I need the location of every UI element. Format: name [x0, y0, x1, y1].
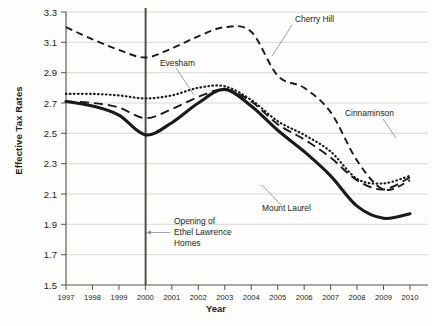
y-tick-label: 2.9 — [44, 67, 57, 78]
x-tick-label: 1998 — [84, 293, 101, 302]
series-line-cinnaminson — [66, 85, 410, 183]
event-label-line-3: Homes — [174, 238, 201, 248]
series-group — [66, 26, 410, 218]
x-tick-label: 2005 — [269, 293, 286, 302]
series-label-cherry-hill: Cherry Hill — [295, 14, 334, 24]
chart-figure: 3.3 3.1 2.9 2.7 2.5 2.3 2.1 1.9 1.7 1.5 … — [0, 0, 432, 326]
gridlines-horizontal — [66, 12, 428, 255]
x-tick-label: 2004 — [243, 293, 260, 302]
x-tick-label: 2006 — [296, 293, 313, 302]
x-tick-label: 2008 — [349, 293, 366, 302]
y-axis-title: Effective Tax Rates — [13, 51, 24, 211]
x-tick-label: 2010 — [402, 293, 419, 302]
x-tick-label: 2007 — [322, 293, 339, 302]
y-tick-label: 2.7 — [44, 98, 57, 109]
x-axis-ticklabels: 1997199819992000200120022003200420052006… — [58, 293, 419, 302]
axes — [66, 12, 428, 285]
y-tick-label: 1.9 — [44, 219, 57, 230]
x-tick-label: 2009 — [375, 293, 392, 302]
series-label-cinnaminson: Cinnaminson — [345, 108, 394, 118]
y-tick-label: 3.1 — [44, 37, 57, 48]
line-chart-canvas: 3.3 3.1 2.9 2.7 2.5 2.3 2.1 1.9 1.7 1.5 … — [0, 0, 432, 326]
x-tick-label: 2002 — [190, 293, 207, 302]
x-tick-label: 2003 — [216, 293, 233, 302]
y-tick-label: 1.7 — [44, 249, 57, 260]
y-axis-ticklabels: 3.3 3.1 2.9 2.7 2.5 2.3 2.1 1.9 1.7 1.5 — [44, 7, 57, 291]
y-tickmarks — [61, 12, 66, 285]
y-tick-label: 2.1 — [44, 189, 57, 200]
x-tick-label: 2000 — [137, 293, 154, 302]
y-tick-label: 2.5 — [44, 128, 57, 139]
series-label-mount-laurel: Mount Laurel — [262, 203, 311, 213]
series-line-evesham — [66, 89, 410, 189]
event-label-line-1: Opening of — [174, 216, 216, 226]
y-tick-label: 3.3 — [44, 7, 57, 18]
series-label-evesham: Evesham — [160, 58, 195, 68]
x-tickmarks — [66, 285, 410, 290]
y-tick-label: 2.3 — [44, 158, 57, 169]
y-tick-label: 1.5 — [44, 280, 57, 291]
x-tick-label: 1999 — [110, 293, 127, 302]
x-tick-label: 2001 — [163, 293, 180, 302]
event-label-line-2: Ethel Lawrence — [174, 227, 232, 237]
x-tick-label: 1997 — [58, 293, 75, 302]
x-axis-title: Year — [0, 303, 432, 314]
